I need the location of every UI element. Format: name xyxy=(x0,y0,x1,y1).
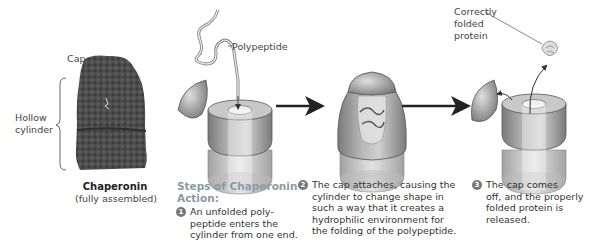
released-cap xyxy=(471,80,497,122)
step2-illustration xyxy=(338,72,407,192)
cap-shape xyxy=(178,80,207,118)
chaperonin-model xyxy=(76,56,147,171)
step-number-3: 3 xyxy=(472,180,482,190)
cap-label: Cap xyxy=(67,53,86,64)
hollow-cylinder-label-line2: cylinder xyxy=(15,124,53,135)
folded-protein-label-line3: protein xyxy=(454,30,488,41)
steps-title-line2: Action: xyxy=(177,192,219,204)
steps-title-line1: Steps of Chaperonin xyxy=(177,180,297,192)
folded-protein-label-line2: folded xyxy=(454,18,484,29)
folded-protein xyxy=(542,41,558,56)
hollow-cylinder-brace xyxy=(56,78,66,170)
step-number-1: 1 xyxy=(176,207,186,217)
folded-protein-label-line1: Correctly xyxy=(454,6,497,17)
chaperonin-title: Chaperonin xyxy=(70,181,160,192)
step-2: 2 The cap attaches, causing the cylinder… xyxy=(298,179,458,243)
step-3: 3 The cap comes off, and the properly fo… xyxy=(472,179,590,231)
polypeptide-label: Polypeptide xyxy=(232,41,288,52)
hollow-cylinder-label-line1: Hollow xyxy=(15,112,47,123)
step-3-text: The cap comes off, and the properly fold… xyxy=(486,179,583,225)
step-2-text: The cap attaches, causing the cylinder t… xyxy=(312,179,456,237)
step-1-text: An unfolded poly- peptide enters the cyl… xyxy=(190,206,298,241)
step-1: 1 An unfolded poly- peptide enters the c… xyxy=(176,206,296,246)
chaperonin-subtitle: (fully assembled) xyxy=(66,193,166,204)
step1-illustration xyxy=(178,10,272,194)
step-number-2: 2 xyxy=(298,180,308,190)
